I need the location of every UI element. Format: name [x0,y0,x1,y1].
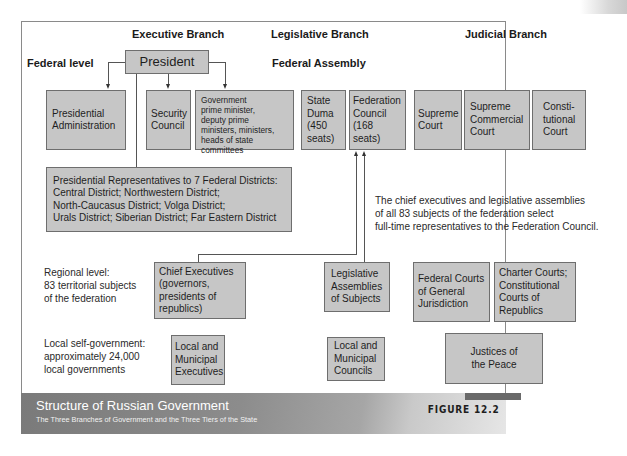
box-text-line: Republics [499,305,575,318]
security-council-box: Security Council [146,90,191,150]
regional-level-label: Regional level: 83 territorial subjects … [44,266,136,305]
justices-of-the-peace-box: Justices of the Peace [445,333,543,384]
box-text-line: seats) [307,133,345,146]
box-text-line: Court [543,126,585,139]
box-text-line: seats) [353,133,405,146]
box-text-line: tutional [543,114,585,127]
note-line: Regional level: [44,266,136,279]
note-line: approximately 24,000 [44,350,145,363]
connector-line [198,254,357,255]
federation-council-box: Federation Council (168 seats) [349,90,406,150]
box-text-line: Urals District; Siberian District; Far E… [53,212,291,225]
constitutional-court-box: Consti- tutional Court [532,90,586,150]
box-text-line: Court [470,126,529,139]
box-text-line: Presidential Representatives to 7 Federa… [53,175,291,188]
arrow-down-icon [166,84,170,89]
box-text-line: committees [201,145,293,155]
box-text-line: Federation [353,95,405,108]
box-text-line: State [307,95,345,108]
box-text-line: (450 [307,120,345,133]
presidential-representatives-box: Presidential Representatives to 7 Federa… [46,167,292,232]
figure-title: Structure of Russian Government [36,398,229,413]
box-text-line: Assemblies [331,281,389,294]
connector-line [168,74,169,84]
figure-caption-band: Structure of Russian Government The Thre… [21,393,506,434]
box-text-line: (governors, [159,278,245,291]
note-line: 83 territorial subjects [44,279,136,292]
judicial-branch-heading: Judicial Branch [465,28,547,40]
box-text-line: Security [151,108,190,121]
box-text-line: Supreme [418,108,461,121]
box-text-line: Court [418,120,461,133]
box-text-line: Councils [334,365,384,378]
box-text-line: republics) [159,303,245,316]
legislative-assemblies-box: Legislative Assemblies of Subjects [324,262,390,312]
note-line: local governments [44,363,145,376]
federal-level-label: Federal level [27,57,94,69]
box-text-line: Consti- [543,101,585,114]
box-text-line: (168 [353,120,405,133]
connector-line [108,62,125,63]
box-text-line: Council [151,120,190,133]
connector-line [364,156,365,262]
figure-number: FIGURE 12.2 [428,403,500,416]
note-line: full-time representatives to the Federat… [375,220,598,233]
chief-executives-box: Chief Executives (governors, presidents … [154,262,246,319]
box-text-line: the Peace [471,359,516,372]
federation-council-note: The chief executives and legislative ass… [375,194,598,233]
note-line: Local self-government: [44,337,145,350]
connector-line [209,62,226,63]
connector-line [108,62,109,84]
box-text-line: Chief Executives [159,266,245,279]
box-text-line: Constitutional [499,280,575,293]
box-text-line: Charter Courts; [499,267,575,280]
note-line: The chief executives and legislative ass… [375,194,598,207]
box-text-line: Council [353,108,405,121]
box-text-line: Justices of [470,346,517,359]
box-text-line: Administration [52,120,125,133]
box-text-line: Commercial [470,114,529,127]
box-text-line: Presidential [52,108,125,121]
local-municipal-councils-box: Local and Municipal Councils [327,337,385,381]
box-text-line: Central District; Northwestern District; [53,187,291,200]
box-text-line: presidents of [159,291,245,304]
executive-branch-heading: Executive Branch [132,28,224,40]
connector-line [356,156,357,254]
supreme-court-box: Supreme Court [414,90,462,150]
federal-assembly-heading: Federal Assembly [272,57,366,69]
box-text-line: Municipal [175,354,224,367]
connector-line [225,62,226,84]
box-text-line: Local and [334,340,384,353]
box-text-line: of General [418,286,489,299]
box-text-line: Executives [175,366,224,379]
presidential-administration-box: Presidential Administration [46,90,126,150]
box-text-line: Federal Courts [418,273,489,286]
arrow-down-icon [106,84,110,89]
state-duma-box: State Duma (450 seats) [301,90,346,150]
local-municipal-executives-box: Local and Municipal Executives [171,335,225,385]
president-label: President [140,56,195,69]
supreme-commercial-court-box: Supreme Commercial Court [464,90,530,150]
charter-courts-box: Charter Courts; Constitutional Courts of… [494,262,576,322]
box-text-line: Duma [307,108,345,121]
arrow-down-icon [223,84,227,89]
box-text-line: North-Caucasus District; Volga District; [53,200,291,213]
box-text-line: deputy prime [201,115,293,125]
box-text-line: Government [201,95,293,105]
box-text-line: Courts of [499,292,575,305]
note-line: of all 83 subjects of the federation sel… [375,207,598,220]
box-text-line: Municipal [334,353,384,366]
box-text-line: Jurisdiction [418,298,489,311]
box-text-line: of Subjects [331,293,389,306]
box-text-line: Supreme [470,101,529,114]
connector-line [198,254,199,262]
president-box: President [125,50,209,74]
legislative-branch-heading: Legislative Branch [271,28,369,40]
box-text-line: heads of state [201,135,293,145]
box-text-line: Local and [175,341,224,354]
figure-label-bar [465,393,521,400]
box-text-line: Legislative [331,268,389,281]
note-line: of the federation [44,292,136,305]
local-self-government-label: Local self-government: approximately 24,… [44,337,145,376]
government-box: Government prime minister, deputy prime … [195,90,294,150]
